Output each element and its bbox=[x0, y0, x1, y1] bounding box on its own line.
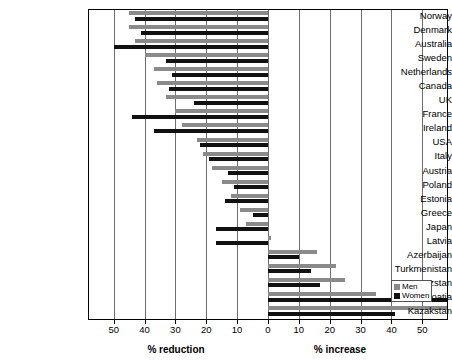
bar-men bbox=[135, 39, 268, 43]
bar-women bbox=[172, 73, 268, 77]
bar-men bbox=[212, 166, 268, 170]
bar-men bbox=[197, 138, 268, 142]
y-axis-label: Poland bbox=[366, 180, 452, 190]
legend-swatch-women-icon bbox=[394, 293, 400, 299]
bar-women bbox=[253, 213, 268, 217]
legend-item-men: Men bbox=[394, 282, 429, 291]
bar-men bbox=[166, 95, 268, 99]
bar-men bbox=[203, 152, 268, 156]
y-axis-label: Australia bbox=[366, 39, 452, 49]
y-axis-label: Norway bbox=[366, 11, 452, 21]
bar-women bbox=[268, 269, 311, 273]
bar-men bbox=[231, 194, 268, 198]
x-axis-tick-label: 20 bbox=[324, 324, 335, 335]
bar-men bbox=[154, 67, 268, 71]
bar-men bbox=[145, 53, 268, 57]
y-axis-label: France bbox=[366, 109, 452, 119]
bar-men bbox=[129, 25, 268, 29]
y-axis-label: Netherlands bbox=[366, 67, 452, 77]
x-axis-title-left: % reduction bbox=[147, 344, 204, 355]
bar-women bbox=[169, 87, 268, 91]
bar-women bbox=[154, 129, 268, 133]
x-axis-tick-label: 20 bbox=[201, 324, 212, 335]
legend: Men Women bbox=[391, 280, 432, 302]
y-axis-label: Kazakstan bbox=[366, 306, 452, 316]
bar-men bbox=[268, 278, 345, 282]
bar-women bbox=[225, 199, 268, 203]
bar-men bbox=[175, 109, 268, 113]
bar-women bbox=[135, 17, 268, 21]
bar-men bbox=[246, 222, 268, 226]
bar-women bbox=[228, 171, 268, 175]
y-axis-label: USA bbox=[366, 137, 452, 147]
bar-men bbox=[268, 250, 317, 254]
y-axis-label: Azerbaijan bbox=[366, 250, 452, 260]
bar-women bbox=[209, 157, 268, 161]
bar-women bbox=[216, 241, 268, 245]
bar-women bbox=[194, 101, 268, 105]
y-axis-label: Estonia bbox=[366, 194, 452, 204]
bar-men bbox=[268, 292, 376, 296]
bar-women bbox=[166, 59, 268, 63]
bar-men bbox=[268, 236, 271, 240]
y-axis-label: Denmark bbox=[366, 25, 452, 35]
x-axis-tick-label: 30 bbox=[355, 324, 366, 335]
x-axis: 504030201001020304050 bbox=[88, 320, 448, 332]
bar-women bbox=[200, 143, 268, 147]
y-axis-label: Latvia bbox=[366, 236, 452, 246]
bar-men bbox=[129, 11, 268, 15]
bidirectional-bar-chart: NorwayDenmarkAustraliaSwedenNetherlandsC… bbox=[0, 0, 452, 363]
y-axis-label: Turkmenistan bbox=[366, 264, 452, 274]
x-axis-tick-label: 30 bbox=[170, 324, 181, 335]
bar-women bbox=[216, 227, 268, 231]
bar-men bbox=[182, 123, 268, 127]
legend-swatch-men-icon bbox=[394, 284, 400, 290]
y-axis-label: Ireland bbox=[366, 123, 452, 133]
y-axis-label: Greece bbox=[366, 208, 452, 218]
y-axis-label: UK bbox=[366, 95, 452, 105]
bar-women bbox=[114, 45, 268, 49]
y-axis-label: Sweden bbox=[366, 53, 452, 63]
x-axis-tick-label: 40 bbox=[386, 324, 397, 335]
x-axis-tick-label: 0 bbox=[265, 324, 270, 335]
x-axis-tick-label: 10 bbox=[232, 324, 243, 335]
y-axis-label: Italy bbox=[366, 151, 452, 161]
legend-label-men: Men bbox=[402, 282, 418, 291]
bar-men bbox=[268, 264, 336, 268]
bar-women bbox=[132, 115, 268, 119]
x-axis-tick-label: 10 bbox=[294, 324, 305, 335]
bar-women bbox=[268, 255, 299, 259]
bar-women bbox=[141, 31, 268, 35]
x-axis-tick-label: 40 bbox=[139, 324, 150, 335]
y-axis-label: Austria bbox=[366, 166, 452, 176]
bar-women bbox=[234, 185, 268, 189]
x-axis-tick-label: 50 bbox=[108, 324, 119, 335]
x-axis-title-right: % increase bbox=[314, 344, 366, 355]
y-axis-label: Japan bbox=[366, 222, 452, 232]
bar-men bbox=[240, 208, 268, 212]
legend-item-women: Women bbox=[394, 291, 429, 300]
bar-men bbox=[157, 81, 268, 85]
bar-men bbox=[222, 180, 268, 184]
y-axis-label: Canada bbox=[366, 81, 452, 91]
bar-women bbox=[268, 283, 320, 287]
x-axis-tick-label: 50 bbox=[417, 324, 428, 335]
legend-label-women: Women bbox=[402, 291, 429, 300]
